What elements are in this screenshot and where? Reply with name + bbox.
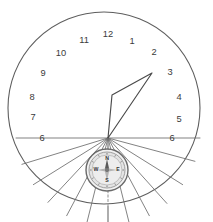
compass-cardinal-E: E <box>116 166 120 172</box>
hour-label-6-12: 6 <box>169 133 174 143</box>
sundial-diagram: 6789101112123456 NSWE <box>0 0 213 222</box>
hour-label-10-4: 10 <box>56 48 66 58</box>
hour-label-9-3: 9 <box>40 68 45 78</box>
hour-label-7-1: 7 <box>30 112 35 122</box>
hour-label-1-7: 1 <box>129 36 134 46</box>
compass-cardinal-N: N <box>105 155 109 161</box>
hour-label-5-11: 5 <box>176 114 181 124</box>
hour-label-6-0: 6 <box>39 133 44 143</box>
sundial-canvas: 6789101112123456 NSWE <box>0 0 213 222</box>
hour-label-4-10: 4 <box>176 92 181 102</box>
hour-label-3-9: 3 <box>167 67 172 77</box>
hour-label-12-6: 12 <box>103 29 113 39</box>
compass-rose: NSWE <box>86 149 128 191</box>
hour-label-8-2: 8 <box>29 92 34 102</box>
compass-cardinal-S: S <box>105 177 109 183</box>
hour-label-2-8: 2 <box>151 47 156 57</box>
compass-pivot-hub <box>105 168 108 171</box>
hour-label-11-5: 11 <box>79 35 89 45</box>
compass-cardinal-W: W <box>94 166 99 172</box>
